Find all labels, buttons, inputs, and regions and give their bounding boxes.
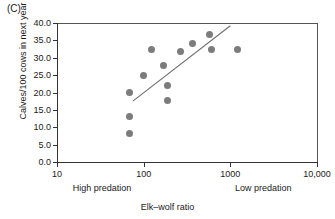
x-tick-mark: [144, 163, 145, 167]
y-tick-mark: [53, 23, 57, 24]
figure-panel-c: (C) 0.05.010.015.020.025.030.035.040.0 1…: [0, 0, 335, 219]
axis-annotation: Low predation: [235, 183, 292, 193]
data-point: [148, 46, 155, 53]
x-tick-mark: [317, 163, 318, 167]
data-point: [126, 113, 133, 120]
y-tick-label: 0.0: [19, 158, 51, 167]
x-tick-label: 10,000: [303, 169, 331, 179]
y-tick-mark: [53, 40, 57, 41]
data-point: [164, 82, 171, 89]
data-point: [177, 48, 184, 55]
data-point: [160, 62, 167, 69]
x-tick-label: 100: [136, 169, 151, 179]
y-tick-mark: [53, 145, 57, 146]
x-tick-label: 10: [52, 169, 62, 179]
y-axis-line: [57, 23, 58, 163]
y-tick-label: 10.0: [19, 123, 51, 132]
x-tick-label: 1000: [220, 169, 240, 179]
data-point: [140, 72, 147, 79]
data-point: [126, 89, 133, 96]
y-axis-label: Calves/100 cows in next year: [18, 0, 28, 124]
y-tick-mark: [53, 93, 57, 94]
plot-frame-right: [317, 23, 318, 163]
y-tick-label: 5.0: [19, 141, 51, 150]
x-axis-line: [57, 162, 318, 163]
plot-frame-top: [57, 23, 318, 24]
y-tick-mark: [53, 110, 57, 111]
x-axis-label: Elk–wolf ratio: [0, 202, 335, 212]
data-point: [189, 40, 196, 47]
data-point: [126, 130, 133, 137]
x-tick-mark: [230, 163, 231, 167]
data-point: [164, 97, 171, 104]
x-tick-mark: [57, 163, 58, 167]
y-tick-mark: [53, 127, 57, 128]
data-point: [234, 46, 241, 53]
data-point: [208, 46, 215, 53]
y-tick-mark: [53, 75, 57, 76]
axis-annotation: High predation: [73, 183, 132, 193]
y-tick-mark: [53, 58, 57, 59]
data-point: [206, 31, 213, 38]
